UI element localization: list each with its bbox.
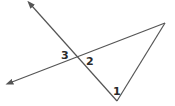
angle-label-3: 3: [61, 50, 69, 61]
line-b: [12, 23, 165, 82]
geometry-diagram: [0, 0, 175, 106]
segment-c: [117, 23, 165, 101]
angle-label-1: 1: [113, 86, 121, 97]
line-a: [32, 6, 117, 101]
angle-label-2: 2: [86, 56, 94, 67]
